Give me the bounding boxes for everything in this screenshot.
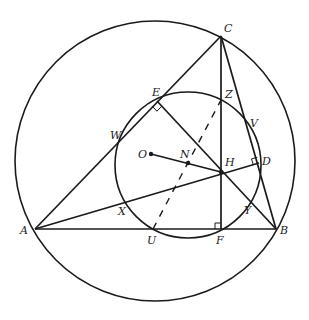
label-d: D	[261, 155, 271, 168]
label-c: C	[224, 22, 233, 35]
segment-ca	[35, 36, 221, 229]
label-a: A	[19, 224, 28, 237]
label-f: F	[215, 234, 224, 247]
label-v: V	[250, 117, 259, 130]
circumcircle	[15, 21, 295, 301]
label-n: N	[179, 148, 190, 161]
label-h: H	[224, 156, 235, 169]
label-u: U	[147, 234, 157, 247]
label-e: E	[151, 86, 160, 99]
segments	[35, 36, 276, 229]
label-w: W	[110, 129, 123, 142]
point-n-dot	[186, 161, 190, 165]
label-b: B	[279, 224, 288, 237]
label-x: X	[117, 205, 127, 218]
geometry-diagram: ABCDEFHNOUVWXYZ	[0, 0, 309, 320]
label-o: O	[138, 148, 147, 161]
circles	[15, 21, 295, 301]
segment-ad	[35, 163, 259, 229]
label-y: Y	[244, 204, 253, 217]
point-h-dot	[219, 170, 223, 174]
right-angle-mark-f	[215, 223, 221, 229]
label-z: Z	[224, 88, 233, 101]
point-o-dot	[149, 152, 153, 156]
